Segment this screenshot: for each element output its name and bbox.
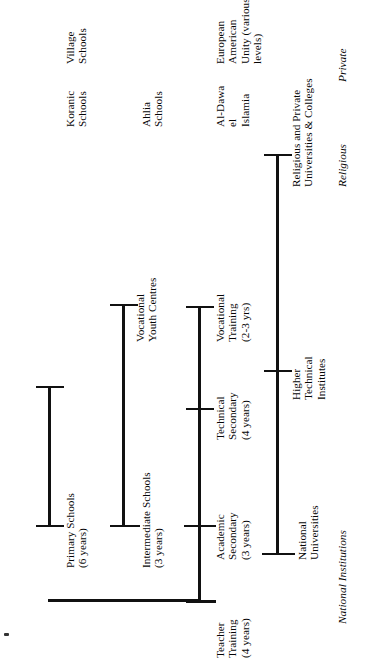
bracket-tertiary-tick-mid bbox=[264, 370, 292, 372]
rail-connector-left bbox=[124, 599, 200, 602]
node-koranic-schools: Koranic Schools bbox=[64, 91, 89, 127]
column-header-religious: Religious bbox=[336, 144, 349, 187]
bracket-secondary-tick-mid bbox=[186, 408, 214, 410]
bracket-primary-cap-left bbox=[36, 525, 64, 527]
node-academic-secondary: Academic Secondary (3 years) bbox=[214, 512, 251, 560]
bracket-intermediate-cap-right bbox=[110, 304, 138, 306]
bracket-tertiary-cap-right bbox=[264, 154, 292, 156]
bracket-secondary-cap-right bbox=[186, 306, 214, 308]
bracket-intermediate-cap-left bbox=[110, 525, 140, 527]
node-religious-private-universities: Religious and Private Universities & Col… bbox=[290, 78, 315, 187]
diagram-canvas: National Institutions Religious Private … bbox=[0, 0, 370, 672]
node-european-american-unity: European American Unity (various levels) bbox=[214, 0, 264, 64]
node-primary-schools: Primary Schools (6 years) bbox=[64, 493, 89, 568]
node-national-universities: National Universities bbox=[296, 505, 321, 560]
bracket-primary-cap-right bbox=[36, 386, 64, 388]
node-vocational-training: Vocational Training (2-3 yrs) bbox=[214, 294, 251, 342]
bracket-secondary-spine bbox=[198, 306, 201, 526]
bracket-primary-spine bbox=[48, 386, 51, 526]
node-teacher-training-label: Teacher Training (4 years) bbox=[214, 618, 251, 658]
node-technical-secondary: Technical Secondary (4 years) bbox=[214, 392, 251, 440]
node-ahlia-schools: Ahlia Schools bbox=[140, 91, 165, 127]
column-header-national-institutions: National Institutions bbox=[336, 424, 349, 624]
bracket-tertiary-cap-left bbox=[262, 553, 295, 555]
node-village-schools: Village Schools bbox=[64, 28, 89, 64]
column-header-private: Private bbox=[336, 48, 349, 82]
bracket-teacher-training-spine bbox=[198, 524, 201, 602]
node-al-dawa-el-islamia: Al-Dawa el Islamia bbox=[214, 86, 251, 127]
print-registration-speck bbox=[4, 633, 9, 636]
node-intermediate-schools: Intermediate Schools (3 years) bbox=[140, 472, 165, 568]
node-vocational-youth-centres: Vocational Youth Centres bbox=[134, 278, 159, 342]
rail-connector-center bbox=[48, 599, 126, 602]
node-higher-technical-institutes: Higher Technical Institutes bbox=[290, 356, 327, 400]
diagram-stage: National Institutions Religious Private … bbox=[0, 0, 370, 672]
bracket-intermediate-spine bbox=[122, 304, 125, 526]
bracket-tertiary-spine bbox=[276, 154, 279, 554]
